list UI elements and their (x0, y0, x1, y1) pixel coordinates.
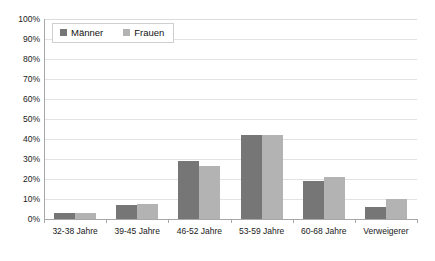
bar-group (168, 19, 230, 219)
bar-group (293, 19, 355, 219)
bar-frauen (199, 166, 220, 219)
x-axis-tick-mark (231, 219, 232, 223)
x-axis-tick-mark (168, 219, 169, 223)
bar-group (355, 19, 417, 219)
bar-group (231, 19, 293, 219)
x-axis-tick-mark (355, 219, 356, 223)
x-axis-tick-mark (417, 219, 418, 223)
bar-groups (44, 19, 417, 219)
y-axis-tick-label: 90% (0, 35, 40, 44)
bar-maenner (54, 213, 75, 219)
bar-frauen (386, 199, 407, 219)
y-axis-tick-label: 20% (0, 175, 40, 184)
bar-frauen (75, 213, 96, 219)
legend-label-frauen: Frauen (134, 28, 164, 38)
legend-item-maenner: Männer (60, 28, 103, 38)
legend-swatch-icon (60, 29, 67, 36)
x-axis-tick-mark (44, 219, 45, 223)
legend-item-frauen: Frauen (123, 28, 164, 38)
x-axis-tick-mark (106, 219, 107, 223)
x-axis-category-label: 32-38 Jahre (44, 227, 106, 236)
bar-maenner (365, 207, 386, 219)
y-axis-tick-label: 70% (0, 75, 40, 84)
bar-chart: 100%90%80%70%60%50%40%30%20%10%0% 32-38 … (0, 0, 435, 261)
chart-legend: Männer Frauen (52, 23, 174, 43)
bar-maenner (303, 181, 324, 219)
bar-group (106, 19, 168, 219)
bar-frauen (137, 204, 158, 219)
x-axis-tick-mark (293, 219, 294, 223)
y-axis-tick-label: 40% (0, 135, 40, 144)
y-axis-tick-label: 0% (0, 215, 40, 224)
x-axis-category-label: 46-52 Jahre (168, 227, 230, 236)
bar-maenner (178, 161, 199, 219)
y-axis-labels: 100%90%80%70%60%50%40%30%20%10%0% (0, 19, 40, 219)
bar-frauen (262, 135, 283, 219)
y-axis-tick-label: 10% (0, 195, 40, 204)
x-axis-category-label: 39-45 Jahre (106, 227, 168, 236)
y-axis-tick-label: 50% (0, 115, 40, 124)
y-axis-tick-label: 100% (0, 15, 40, 24)
y-axis-tick-label: 60% (0, 95, 40, 104)
bar-frauen (324, 177, 345, 219)
x-axis-category-label: Verweigerer (355, 227, 417, 236)
legend-label-maenner: Männer (71, 28, 103, 38)
x-axis-category-label: 53-59 Jahre (231, 227, 293, 236)
bar-maenner (116, 205, 137, 219)
y-axis-tick-label: 80% (0, 55, 40, 64)
x-axis-category-labels: 32-38 Jahre39-45 Jahre46-52 Jahre53-59 J… (44, 227, 417, 236)
bar-group (44, 19, 106, 219)
y-axis-tick-label: 30% (0, 155, 40, 164)
x-axis-category-label: 60-68 Jahre (293, 227, 355, 236)
legend-swatch-icon (123, 29, 130, 36)
bar-maenner (241, 135, 262, 219)
